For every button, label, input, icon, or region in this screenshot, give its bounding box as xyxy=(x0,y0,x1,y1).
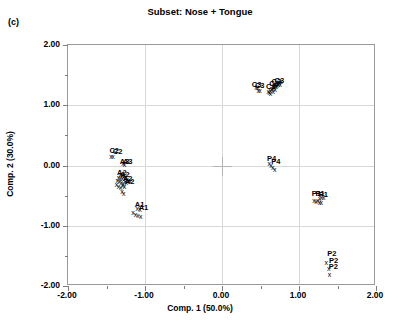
data-point-marker: x xyxy=(320,198,324,205)
panel-label: (c) xyxy=(8,17,19,27)
data-point-label: A2 xyxy=(125,178,135,186)
x-tick-minor xyxy=(338,286,339,289)
x-tick-minor xyxy=(184,286,185,289)
data-point-label: P4 xyxy=(271,158,280,166)
data-point-label: P1 xyxy=(319,191,328,199)
y-tick-minor xyxy=(65,135,68,136)
y-tick-minor xyxy=(65,256,68,257)
y-tick-label: -1.00 xyxy=(18,220,60,230)
y-tick-major xyxy=(63,45,68,46)
chart-title: Subset: Nose + Tongue xyxy=(0,6,400,17)
x-axis-title: Comp. 1 (50.0%) xyxy=(0,303,400,313)
gridline-horizontal xyxy=(68,166,374,167)
data-point-marker: x xyxy=(328,271,332,278)
data-point-label: A3 xyxy=(123,158,133,166)
data-point-label: C3 xyxy=(275,77,285,85)
y-tick-label: -2.00 xyxy=(18,280,60,290)
data-point-label: C3 xyxy=(255,82,265,90)
gridline-vertical xyxy=(299,45,300,284)
pca-scatter-figure: (c) Subset: Nose + Tongue Comp. 2 (30.0%… xyxy=(0,0,400,324)
x-tick-label: 0.00 xyxy=(213,290,230,300)
x-tick-label: 2.00 xyxy=(367,290,384,300)
data-point-marker: x xyxy=(273,165,277,172)
gridline-horizontal xyxy=(68,226,374,227)
data-point-label: P2 xyxy=(329,263,338,271)
gridline-horizontal xyxy=(68,105,374,106)
data-point-label: C2 xyxy=(113,148,123,156)
x-tick-label: -1.00 xyxy=(134,290,153,300)
x-tick-minor xyxy=(261,286,262,289)
gridline-vertical xyxy=(222,45,223,284)
x-tick-minor xyxy=(107,286,108,289)
data-point-label: A1 xyxy=(139,204,149,212)
gridline-vertical xyxy=(145,45,146,284)
y-tick-minor xyxy=(65,75,68,76)
data-point-marker: x xyxy=(122,189,126,196)
x-tick-label: 1.00 xyxy=(290,290,307,300)
y-tick-label: 0.00 xyxy=(18,160,60,170)
y-tick-label: 2.00 xyxy=(18,39,60,49)
y-tick-label: 1.00 xyxy=(18,99,60,109)
y-tick-minor xyxy=(65,196,68,197)
y-tick-major xyxy=(63,226,68,227)
y-tick-major xyxy=(63,166,68,167)
x-tick-label: -2.00 xyxy=(57,290,76,300)
y-tick-major xyxy=(63,105,68,106)
y-axis-title: Comp. 2 (30.0%) xyxy=(5,131,15,197)
data-point-marker: x xyxy=(139,213,143,220)
plot-area: xxxxxxxxxxxxxxxxxxxxxxxC3C3C3C3C3C3xxC2C… xyxy=(67,44,375,285)
